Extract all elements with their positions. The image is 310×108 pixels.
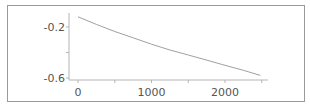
y-tick-label: -0.6 [44, 72, 65, 85]
tick-labels: 010002000-0.2-0.6 [44, 21, 239, 99]
x-tick-label: 0 [75, 86, 82, 99]
data-line [78, 17, 260, 76]
x-tick-label: 1000 [138, 86, 166, 99]
axes [66, 13, 268, 83]
y-tick-label: -0.2 [44, 21, 65, 34]
x-tick-label: 2000 [211, 86, 239, 99]
line-chart: 010002000-0.2-0.6 [0, 0, 310, 108]
